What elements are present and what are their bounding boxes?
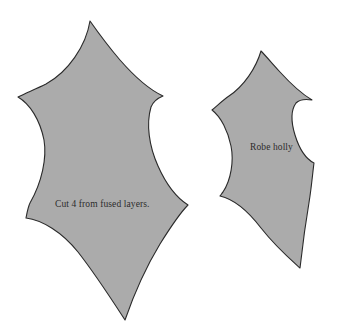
label-robe-holly: Robe holly <box>250 143 293 153</box>
label-cut-instruction: Cut 4 from fused layers. <box>55 200 149 210</box>
pattern-shapes-canvas <box>0 0 344 336</box>
large-holly-leaf-shape <box>18 21 188 320</box>
pattern-sheet: Cut 4 from fused layers. Robe holly <box>0 0 344 336</box>
small-holly-leaf-shape <box>212 51 314 268</box>
